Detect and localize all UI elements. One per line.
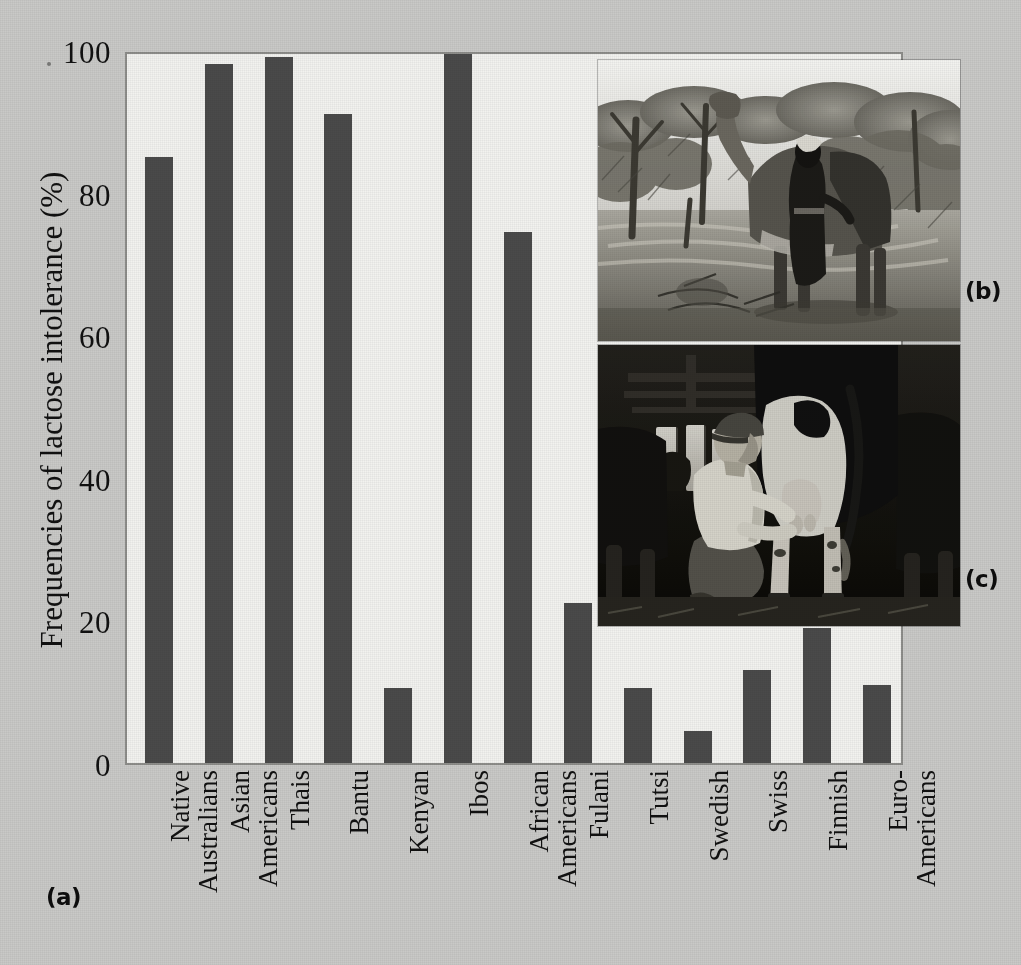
y-axis-tick-40: 40: [79, 464, 111, 495]
x-axis-tick-euro-americans: Euro-Americans: [885, 770, 940, 956]
x-axis-tick-asian-americans: AsianAmericans: [227, 770, 282, 956]
panel-letter-a: (a): [46, 884, 81, 910]
panel-letter-c: (c): [965, 566, 998, 592]
y-axis-tick-60: 60: [79, 322, 111, 353]
y-axis-tick-80: 80: [79, 179, 111, 210]
bar-african-americans: [504, 232, 532, 763]
bar-fulani: [564, 603, 592, 763]
x-axis-tick-finnish: Finnish: [825, 770, 853, 956]
bar-native-australians: [145, 157, 173, 763]
bar-asian-americans: [205, 64, 233, 763]
y-axis-title: Frequencies of lactose intolerance (%): [34, 100, 70, 720]
panel-letter-b: (b): [965, 278, 1001, 304]
x-axis-tick-labels: NativeAustraliansAsianAmericansThaisBant…: [125, 770, 903, 960]
figure-root: Frequencies of lactose intolerance (%) 0…: [0, 0, 1021, 965]
bar-finnish: [803, 628, 831, 763]
bar-tutsi: [624, 688, 652, 763]
x-axis-tick-native-australians: NativeAustralians: [167, 770, 222, 956]
y-axis-tick-20: 20: [79, 607, 111, 638]
x-axis-tick-ibos: Ibos: [466, 770, 494, 956]
x-axis-tick-kenyan: Kenyan: [406, 770, 434, 956]
bar-thais: [265, 57, 293, 763]
bar-kenyan: [384, 688, 412, 763]
y-axis-tick-0: 0: [95, 750, 111, 781]
x-axis-tick-tutsi: Tutsi: [646, 770, 674, 956]
camel-milking-photo: [598, 60, 960, 341]
y-axis: Frequencies of lactose intolerance (%) 0…: [0, 0, 125, 820]
x-axis-tick-thais: Thais: [287, 770, 315, 956]
bar-swedish: [684, 731, 712, 763]
bar-swiss: [743, 670, 771, 763]
cow-milking-photo: [598, 345, 960, 626]
x-axis-tick-fulani: Fulani: [586, 770, 614, 956]
x-axis-tick-bantu: Bantu: [346, 770, 374, 956]
x-axis-tick-swiss: Swiss: [765, 770, 793, 956]
bar-ibos: [444, 54, 472, 763]
x-axis-tick-african-americans: AfricanAmericans: [526, 770, 581, 956]
bar-euro-americans: [863, 685, 891, 763]
x-axis-tick-swedish: Swedish: [706, 770, 734, 956]
bar-bantu: [324, 114, 352, 763]
y-axis-tick-100: 100: [63, 37, 111, 68]
